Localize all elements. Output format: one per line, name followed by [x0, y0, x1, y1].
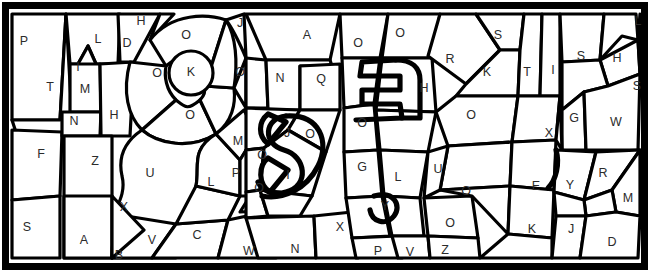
- cell-letter-c08: N: [69, 114, 78, 128]
- cell-letter-c24: M: [233, 134, 243, 148]
- coloring-page-canvas: PTFSLIMNHZADHOOKOUXBVCLMPOOWJOANQJOINXOO…: [0, 0, 650, 272]
- cell-letter-c36: I: [286, 168, 289, 182]
- cell-letter-c56: T: [523, 65, 531, 79]
- cell-letter-c43: O: [395, 26, 405, 40]
- cell-letter-c69: R: [598, 166, 607, 180]
- cell-letter-c15: O: [152, 66, 162, 80]
- cell-letter-c19: X: [120, 200, 129, 214]
- cell-letter-c48: R: [445, 52, 454, 66]
- cell-letter-c62: G: [569, 111, 579, 125]
- cell-letter-c26: O: [257, 148, 267, 162]
- cell-letter-c39: O: [353, 36, 363, 50]
- cell-letter-c37: N: [290, 242, 299, 256]
- cell-letter-c30: O: [235, 65, 245, 79]
- cell-letter-c70: M: [623, 191, 633, 205]
- cell-letter-c41: G: [357, 160, 367, 174]
- cell-letter-c09: H: [109, 108, 118, 122]
- cell-letter-c05: L: [95, 32, 102, 46]
- cell-letter-c58: S: [577, 49, 585, 63]
- cell-letter-c06: I: [76, 60, 79, 74]
- cell-letter-c68: J: [568, 222, 574, 236]
- cell-letter-c71: D: [607, 235, 616, 249]
- cell-letter-c52: U: [433, 162, 442, 176]
- cell-letter-c02: T: [46, 80, 54, 94]
- cell-letter-c23: L: [208, 175, 215, 189]
- cell-letter-c66: K: [528, 222, 537, 236]
- cell-letter-c64: X: [545, 126, 554, 140]
- cell-letter-c31: A: [303, 28, 312, 42]
- cell-letter-c27: O: [254, 181, 264, 195]
- cell-letter-c42: P: [374, 244, 382, 258]
- cell-letter-c46: Y: [381, 199, 390, 213]
- cell-letter-c01: P: [20, 34, 28, 48]
- cell-letter-c13: H: [136, 14, 145, 28]
- cell-letter-c33: Q: [316, 72, 326, 86]
- cell-letter-c28: W: [243, 244, 255, 258]
- cell-letter-c18: U: [145, 166, 154, 180]
- cell-letter-c35: O: [305, 127, 315, 141]
- cell-letter-c63: W: [610, 115, 622, 129]
- cell-letter-c07: M: [80, 82, 90, 96]
- cell-letter-c65: E: [532, 179, 540, 193]
- mosaic-artwork: PTFSLIMNHZADHOOKOUXBVCLMPOOWJOANQJOINXOO…: [0, 0, 650, 272]
- cell-letter-c32: N: [275, 71, 284, 85]
- cell-letter-c25: P: [232, 166, 240, 180]
- cell-letter-c54: O: [445, 216, 455, 230]
- cell-letter-c16: K: [187, 65, 196, 79]
- cell-letter-c51: O: [466, 108, 476, 122]
- cell-letter-c38: X: [336, 220, 345, 234]
- cell-letter-c22: C: [192, 228, 201, 242]
- cell-letter-c11: A: [80, 233, 89, 247]
- cell-letter-c44: H: [419, 81, 428, 95]
- cell-letter-c60: L: [635, 14, 642, 28]
- cell-letter-c29: J: [237, 16, 243, 30]
- cell-letter-c61: S: [633, 79, 641, 93]
- cell-letter-c47: V: [406, 245, 415, 259]
- cell-letter-c12: D: [122, 36, 131, 50]
- cell-letter-c34: J: [284, 126, 290, 140]
- cell-letter-c20: B: [115, 248, 123, 262]
- cell-letter-c14: O: [181, 28, 191, 42]
- cell-letter-c50: S: [494, 28, 502, 42]
- cell-letter-c59: H: [612, 51, 621, 65]
- cell-letter-c21: V: [148, 233, 157, 247]
- cell-letter-c67: Y: [566, 178, 575, 192]
- cell-letter-c49: K: [483, 65, 492, 79]
- cell-letter-c04: S: [23, 220, 31, 234]
- cell-letter-c10: Z: [91, 154, 99, 168]
- cell-letter-c57: I: [551, 63, 554, 77]
- cell-letter-c55: Z: [441, 243, 449, 257]
- cell-letter-c40: O: [357, 116, 367, 130]
- cell-letter-c17: O: [185, 108, 195, 122]
- cell-letter-c53: O: [461, 184, 471, 198]
- cell-letter-c03: F: [37, 147, 45, 161]
- cell-letter-c45: L: [395, 170, 402, 184]
